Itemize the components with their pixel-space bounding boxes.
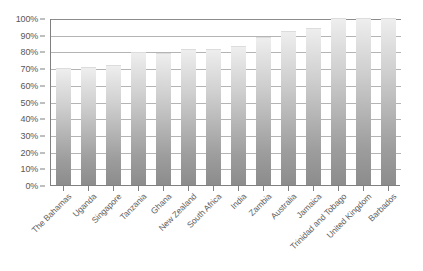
y-tick-mark [40,169,45,170]
x-tick-mark [238,186,239,191]
gridline [51,103,401,104]
x-tick-label: The Bahamas [30,192,73,235]
y-tick-label: 60% [21,81,38,90]
bar [206,49,221,185]
x-tick-label: Tanzania [118,192,148,222]
y-tick-label: 80% [21,48,38,57]
plot-area [50,19,400,186]
bar [356,18,371,185]
bar [156,53,171,185]
bar [331,18,346,185]
x-tick-mark [113,186,114,191]
gridline [51,136,401,137]
bar [81,67,96,185]
y-axis: 0%10%20%30%40%50%60%70%80%90%100% [0,19,45,186]
gridline [51,153,401,154]
x-tick-mark [263,186,264,191]
x-tick-mark [338,186,339,191]
y-tick-mark [40,52,45,53]
y-tick-mark [40,19,45,20]
y-tick-mark [40,135,45,136]
y-tick-mark [40,35,45,36]
x-tick-label: Singapore [90,192,123,225]
y-tick-mark [40,119,45,120]
y-tick-mark [40,186,45,187]
x-tick-label: India [229,192,248,211]
x-tick-label: Zambia [247,192,273,218]
x-tick-mark [88,186,89,191]
x-tick-mark [63,186,64,191]
y-tick-label: 0% [25,182,38,191]
x-tick-mark [163,186,164,191]
bar [306,28,321,185]
x-tick-mark [188,186,189,191]
x-tick-label: Ghana [149,192,173,216]
x-tick-mark [388,186,389,191]
y-tick-label: 40% [21,115,38,124]
bar [381,18,396,185]
gridline [51,52,401,53]
y-tick-label: 30% [21,131,38,140]
gridline [51,169,401,170]
y-tick-label: 10% [21,165,38,174]
gridline [51,19,401,20]
y-tick-label: 90% [21,31,38,40]
x-tick-label: Jamaica [295,192,323,220]
x-tick-label: Trinidad and Tobago [288,192,347,251]
x-tick-mark [288,186,289,191]
bar [56,68,71,185]
gridline [51,36,401,37]
y-tick-label: 100% [16,15,38,24]
x-tick-label: South Africa [185,192,223,230]
x-tick-label: New Zealand [157,192,198,233]
y-tick-label: 70% [21,65,38,74]
bar [181,49,196,185]
y-tick-mark [40,85,45,86]
x-tick-mark [138,186,139,191]
bar [131,52,146,185]
gridline [51,86,401,87]
bar [106,65,121,185]
y-tick-mark [40,102,45,103]
gridline [51,119,401,120]
bar [281,31,296,185]
x-tick-label: Australia [269,192,298,221]
bar [256,37,271,185]
x-tick-mark [213,186,214,191]
bar-chart: 0%10%20%30%40%50%60%70%80%90%100% The Ba… [0,0,423,271]
x-tick-mark [363,186,364,191]
bar [231,46,246,185]
gridline [51,69,401,70]
x-tick-label: Uganda [71,192,98,219]
y-tick-mark [40,69,45,70]
x-tick-label: Barbados [366,192,398,224]
y-tick-mark [40,152,45,153]
y-tick-label: 20% [21,148,38,157]
x-tick-label: United Kingdom [325,192,373,240]
y-tick-label: 50% [21,98,38,107]
x-tick-mark [313,186,314,191]
